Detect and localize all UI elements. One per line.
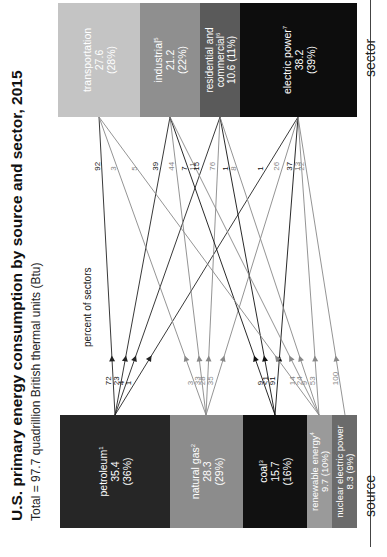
source-flow-percent: 1 xyxy=(124,380,133,385)
flow-line xyxy=(220,117,275,415)
flow-lines: 72234133328359<1911424953100923539447111… xyxy=(0,0,387,557)
sector-flow-percent: 39 xyxy=(151,161,160,170)
sector-flow-percent: 76 xyxy=(208,161,217,170)
sector-flow-percent: 1 xyxy=(256,166,265,171)
flow-arrowhead-icon xyxy=(287,354,295,362)
source-axis-label: source xyxy=(362,475,378,517)
flow-arrowhead-icon xyxy=(131,354,139,362)
source-flow-percent: 53 xyxy=(308,376,317,385)
sector-flow-percent: 3 xyxy=(109,166,118,171)
flow-arrowhead-icon xyxy=(251,354,259,362)
flow-arrowhead-icon xyxy=(220,355,228,363)
flow-arrowhead-icon xyxy=(109,355,115,361)
energy-flow-chart: U.S. primary energy consumption by sourc… xyxy=(0,0,387,557)
source-flow-percent: 35 xyxy=(206,376,215,385)
source-flow-percent: 91 xyxy=(268,376,277,385)
flow-arrowhead-icon xyxy=(196,355,203,362)
sector-flow-percent: 92 xyxy=(93,161,102,170)
flow-arrowhead-icon xyxy=(312,355,318,361)
sector-flow-percent: 22 xyxy=(297,161,306,170)
flow-arrowhead-icon xyxy=(146,354,154,362)
source-flow-percent: 100 xyxy=(331,371,340,385)
flow-arrowhead-icon xyxy=(296,354,304,362)
flow-line xyxy=(170,117,275,415)
flow-arrowhead-icon xyxy=(182,354,190,362)
sector-flow-percent: 15 xyxy=(192,161,201,170)
sector-flow-percent: 26 xyxy=(272,161,281,170)
baseline-rule xyxy=(370,0,371,547)
sector-axis-label: sector xyxy=(362,39,378,77)
sector-flow-percent: 5 xyxy=(130,166,139,171)
sector-flow-percent: 44 xyxy=(167,161,176,170)
sector-flow-percent: 8 xyxy=(229,166,238,171)
flow-arrowhead-icon xyxy=(206,355,212,361)
